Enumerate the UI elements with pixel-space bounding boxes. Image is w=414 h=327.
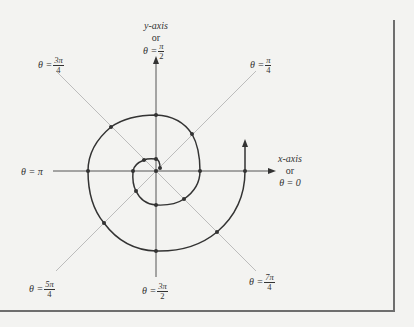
theta-pi-4-label: θ =π4 <box>250 56 271 75</box>
y-axis-label: y-axis or <box>140 21 172 43</box>
theta-7pi-4-label: θ =7π4 <box>249 273 275 292</box>
theta-3pi-4-label: θ =3π4 <box>38 56 64 75</box>
x-axis-label: x-axis or θ = 0 <box>272 154 308 188</box>
spiral-points <box>86 113 247 253</box>
axes <box>53 60 272 277</box>
polar-spiral-diagram <box>0 0 414 327</box>
y-axis-theta-label: θ =π2 <box>143 42 164 61</box>
theta-pi-label: θ = π <box>21 167 43 177</box>
spiral-curve <box>88 115 245 251</box>
theta-5pi-4-label: θ =5π4 <box>29 280 55 299</box>
theta-3pi-2-label: θ =3π2 <box>142 282 168 301</box>
